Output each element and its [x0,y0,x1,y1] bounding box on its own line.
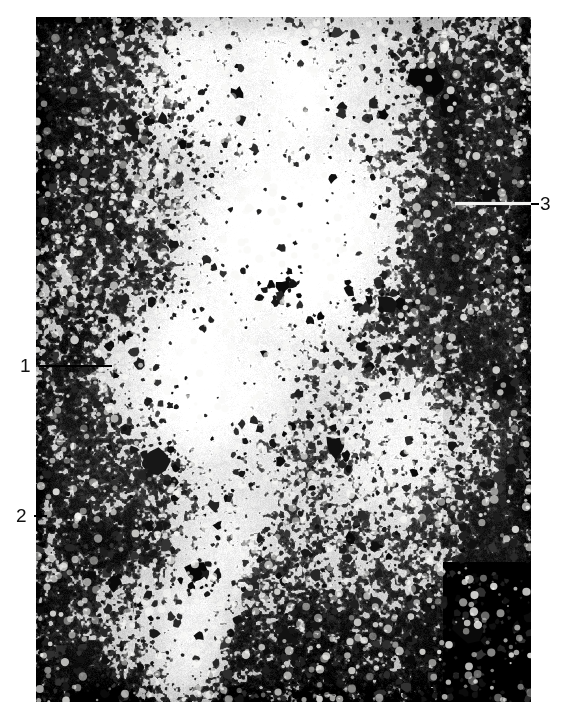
callout-1-leader-line [38,365,112,367]
callout-3-leader-line-inner [455,202,531,205]
callout-1-label: 1 [20,356,31,375]
figure-root: 1 2 3 [0,0,569,725]
callout-3-label: 3 [540,194,551,213]
callout-2-label: 2 [16,506,27,525]
photomicrograph-image [36,17,531,702]
tissue-texture-canvas [36,17,531,702]
callout-3-leader-line-outer [531,203,539,205]
callout-2-leader-line [34,515,47,517]
